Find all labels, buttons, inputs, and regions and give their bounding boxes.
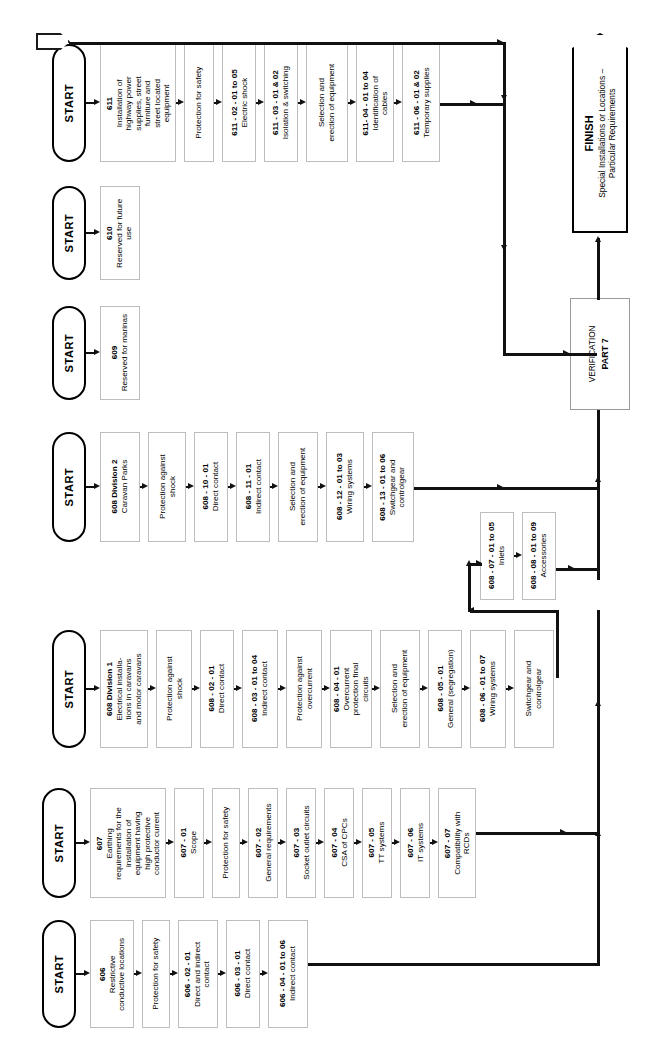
box-line: CSA of CPCs	[339, 819, 349, 868]
finish-title: FINISH	[583, 69, 597, 198]
process-box: Selection anderection of equipment	[380, 630, 420, 748]
arrowhead-right	[320, 483, 326, 489]
route-top-flag	[69, 42, 506, 45]
arrowhead-right	[516, 552, 522, 558]
box-line: shock	[167, 455, 177, 520]
box-text: Selection anderection of equipment	[317, 64, 336, 142]
arrowhead-right	[464, 685, 470, 691]
route-branch-vertical	[503, 42, 506, 355]
process-box: 608 - 03 - 01 to 04Indirect contact	[242, 630, 278, 748]
box-code: 608 - 11 - 01	[243, 460, 253, 515]
box-text: Switchgear andcontrolgear	[524, 661, 543, 717]
box-text: Selection anderection of equipment	[390, 650, 409, 728]
process-box: 611 - 02 - 01 to 05Electric shock	[222, 44, 256, 162]
box-text: 611- 04 - 01 to 04Identification ofcable…	[361, 71, 390, 135]
box-text: 607 - 03Socket outlet circuits	[291, 806, 310, 880]
process-box: 608 - 10 - 01Direct contact	[194, 432, 228, 542]
box-text: Protection for safety	[221, 807, 231, 879]
process-box: 611 - 06 - 01 & 02Temporary supplies	[402, 44, 440, 162]
box-line: Protection for safety	[194, 67, 204, 139]
process-box: 609Reserved for marinas	[100, 306, 140, 400]
box-text: 607 - 02General requirements	[253, 804, 272, 882]
route-branch-to-verification	[503, 353, 597, 356]
box-line: Protection against	[157, 455, 167, 520]
box-text: 610Reserved for futureuse	[106, 198, 135, 267]
route-verification-to-finish	[597, 238, 600, 300]
start-label: START	[53, 824, 65, 863]
route-608sub-exit	[556, 568, 600, 571]
start-label: START	[63, 468, 75, 507]
box-text: 609Reserved for marinas	[110, 314, 129, 391]
box-text: Protection for safety	[151, 938, 161, 1010]
box-line: equipment having	[133, 807, 143, 879]
arrowhead-branch-down	[501, 95, 507, 101]
box-line: Reserved for marinas	[120, 314, 130, 391]
box-line: Overcurrent	[341, 663, 351, 716]
process-box: Protection againstshock	[156, 630, 192, 748]
box-text: 607 - 01Scope	[179, 828, 198, 858]
box-code: 608 Division 2	[110, 460, 120, 514]
box-text: 608 - 13 - 01 to 06Switchgear andcontrol…	[379, 453, 408, 520]
arrowhead-611	[470, 100, 476, 106]
box-code: 607 - 03	[291, 806, 301, 880]
box-text: 611 - 03 - 01 & 02Isolation & switching	[271, 66, 290, 139]
box-text: 606Restrictiveconductive locations	[98, 938, 127, 1011]
route-608div1-up	[556, 610, 559, 678]
start-label: START	[63, 334, 75, 373]
process-box: 608 - 11 - 01Indirect contact	[236, 432, 270, 542]
box-line: Direct contact	[243, 949, 253, 998]
arrowhead-right	[188, 483, 194, 489]
arrowhead-right	[508, 685, 514, 691]
box-line: Direct and indirect	[193, 941, 203, 1006]
process-box: 607 - 07Compatibility withRCDs	[438, 788, 476, 898]
box-line: requirements for the	[114, 807, 124, 879]
box-line: equipment	[162, 76, 172, 130]
arrowhead-into-verification	[563, 350, 569, 356]
arrowhead-right	[172, 970, 178, 976]
process-box: 608 - 08 - 01 to 09Accessories	[522, 512, 556, 600]
arrowhead-right	[236, 685, 242, 691]
box-text: 606 - 02 - 01Direct and indirectcontact	[184, 941, 213, 1006]
route-608sub-feed-up	[468, 565, 471, 612]
box-line: Indirect contact	[288, 940, 298, 1007]
box-text: Protection againstshock	[164, 657, 183, 722]
box-text: 608 - 10 - 01Direct contact	[201, 462, 220, 511]
box-line: Protection for safety	[221, 807, 231, 879]
arrowhead-right	[178, 99, 184, 105]
box-line: high protective	[142, 807, 152, 879]
process-box: 608 - 02 - 01Direct contact	[200, 630, 234, 748]
process-box: Protection for safety	[212, 788, 240, 898]
process-box: 607 - 06IT systems	[400, 788, 430, 898]
box-text: 608 - 07 - 01 to 05Inlets	[487, 522, 506, 589]
box-line: supplies, street	[133, 76, 143, 130]
process-box: Protection againstovercurrent	[286, 630, 322, 748]
start-label: START	[63, 84, 75, 123]
box-text: 608 - 05 - 01General (segregation)	[435, 650, 454, 729]
process-box: 608 - 04 - 01Overcurrentprotection final…	[330, 630, 372, 748]
box-line: Socket outlet circuits	[301, 806, 311, 880]
arrowhead-right	[396, 99, 402, 105]
process-box: 607 - 05TT systems	[362, 788, 392, 898]
box-text: 606 - 03 - 01Direct contact	[233, 949, 252, 998]
arrowhead-right	[280, 685, 286, 691]
arrowhead-verification-feed	[595, 476, 601, 482]
box-code: 607 - 04	[329, 819, 339, 868]
arrowhead-607	[560, 829, 566, 835]
box-code: 608 - 06 - 01 to 07	[478, 655, 488, 722]
box-text: 608 Division 1Electrical installa-tions …	[105, 653, 143, 725]
arrowhead-right	[324, 685, 330, 691]
box-text: Protection againstshock	[157, 455, 176, 520]
arrowhead-right	[280, 839, 286, 845]
process-box: 608 Division 2Caravan Parks	[100, 432, 140, 542]
process-box: 611- 04 - 01 to 04Identification ofcable…	[356, 44, 394, 162]
box-line: Switchgear and	[524, 661, 534, 717]
arrowhead-right	[194, 685, 200, 691]
box-line: furniture and	[143, 76, 153, 130]
box-line: street located	[152, 76, 162, 130]
box-line: Selection and	[390, 650, 400, 728]
box-line: Earthing	[104, 807, 114, 879]
arrowhead-right	[220, 970, 226, 976]
process-box: 608 - 13 - 01 to 06Switchgear andcontrol…	[372, 432, 414, 542]
box-code: 611- 04 - 01 to 04	[361, 71, 371, 135]
box-line: Compatibility with	[452, 812, 462, 875]
